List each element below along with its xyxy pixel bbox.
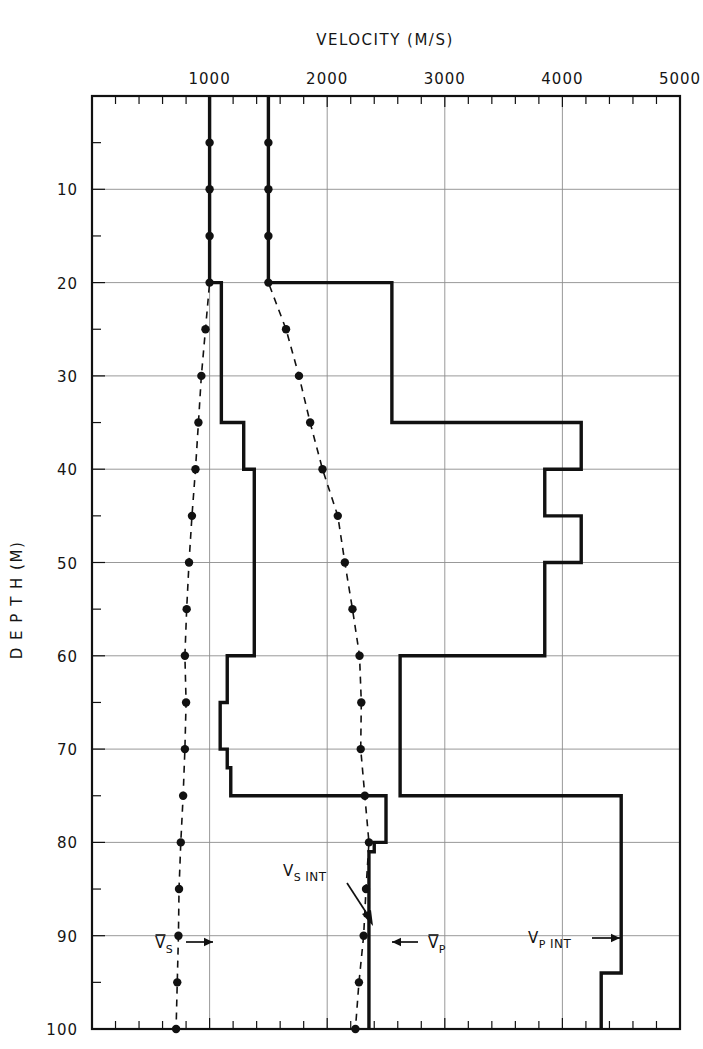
y-tick-label: 30 <box>57 368 78 386</box>
data-point <box>348 605 356 613</box>
y-tick-label: 90 <box>57 928 78 946</box>
data-point <box>181 652 189 660</box>
data-point <box>355 652 363 660</box>
data-point <box>177 838 185 846</box>
y-tick-label: 70 <box>57 741 78 759</box>
data-point <box>365 838 373 846</box>
data-point <box>334 512 342 520</box>
x-tick-label: 2000 <box>306 70 348 88</box>
data-point <box>175 885 183 893</box>
data-point <box>194 418 202 426</box>
data-point <box>306 418 314 426</box>
data-point <box>191 465 199 473</box>
y-tick-label: 60 <box>57 648 78 666</box>
data-point <box>201 325 209 333</box>
data-point <box>357 745 365 753</box>
data-point <box>295 372 303 380</box>
data-point <box>173 978 181 986</box>
data-point <box>188 512 196 520</box>
velocity-depth-chart: VELOCITY (M/S) D E P T H (M) 10002000300… <box>0 0 703 1049</box>
y-tick-label: 20 <box>57 275 78 293</box>
y-axis-title: D E P T H (M) <box>8 541 26 660</box>
data-point <box>182 698 190 706</box>
y-tick-label: 40 <box>57 461 78 479</box>
data-point <box>341 558 349 566</box>
x-tick-label: 1000 <box>189 70 231 88</box>
y-tick-label: 100 <box>46 1021 78 1039</box>
chart-title: VELOCITY (M/S) <box>316 31 454 49</box>
data-point <box>359 932 367 940</box>
data-point <box>355 978 363 986</box>
y-tick-label: 80 <box>57 834 78 852</box>
data-point <box>282 325 290 333</box>
x-tick-label: 4000 <box>541 70 583 88</box>
data-point <box>197 372 205 380</box>
x-tick-label: 3000 <box>424 70 466 88</box>
y-tick-label: 10 <box>57 181 78 199</box>
data-point <box>181 745 189 753</box>
data-point <box>318 465 326 473</box>
data-point <box>357 698 365 706</box>
y-tick-label: 50 <box>57 555 78 573</box>
data-point <box>179 792 187 800</box>
data-point <box>174 932 182 940</box>
chart-background <box>0 0 703 1049</box>
data-point <box>182 605 190 613</box>
x-tick-label: 5000 <box>659 70 701 88</box>
data-point <box>185 558 193 566</box>
